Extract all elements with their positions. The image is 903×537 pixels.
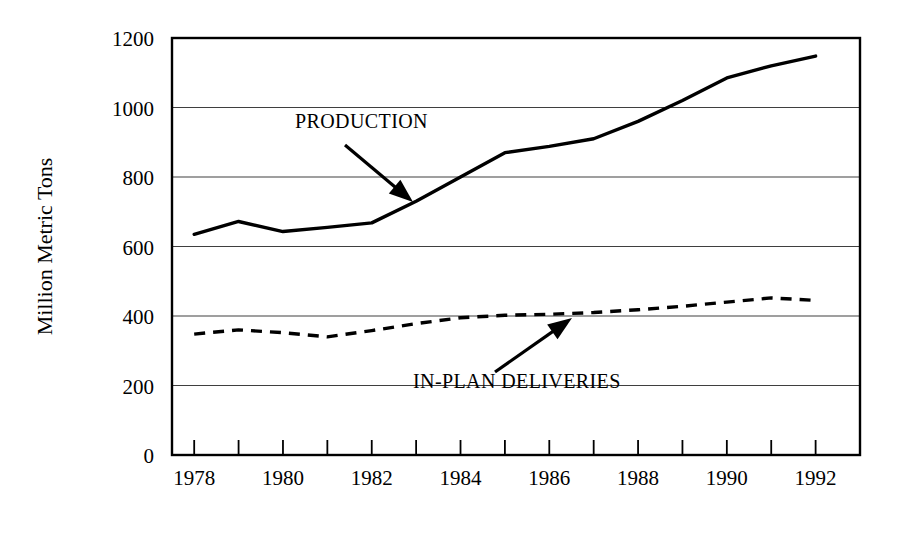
x-axis-tick-marks xyxy=(194,440,815,455)
y-axis-title: Million Metric Tons xyxy=(32,158,57,336)
y-axis-tick-labels: 020040060080010001200 xyxy=(112,27,154,468)
series-line-production xyxy=(194,56,815,234)
y-axis-title-text: Million Metric Tons xyxy=(32,158,57,336)
x-axis-tick-label: 1984 xyxy=(440,466,483,490)
y-axis-tick-label: 200 xyxy=(123,375,155,399)
x-axis-tick-label: 1990 xyxy=(706,466,748,490)
x-axis-tick-label: 1980 xyxy=(262,466,304,490)
x-axis-tick-label: 1978 xyxy=(173,466,215,490)
annotation-arrow-shaft xyxy=(345,145,399,190)
y-axis-tick-label: 1000 xyxy=(112,97,154,121)
annotation-arrow-shaft xyxy=(495,328,557,372)
y-axis-tick-label: 1200 xyxy=(112,27,154,51)
gridlines xyxy=(172,108,860,386)
x-axis-tick-label: 1986 xyxy=(528,466,570,490)
chart-figure: 19781980198219841986198819901992 0200400… xyxy=(0,0,903,537)
series-annotations: PRODUCTIONIN-PLAN DELIVERIES xyxy=(295,110,621,392)
line-chart: 19781980198219841986198819901992 0200400… xyxy=(0,0,903,537)
annotation-label: PRODUCTION xyxy=(295,110,428,132)
x-axis-tick-label: 1992 xyxy=(795,466,837,490)
y-axis-tick-label: 800 xyxy=(123,166,155,190)
y-axis-tick-label: 0 xyxy=(144,444,155,468)
x-axis-tick-labels: 19781980198219841986198819901992 xyxy=(173,466,836,490)
data-series xyxy=(194,56,815,337)
y-axis-tick-label: 600 xyxy=(123,236,155,260)
y-axis-tick-label: 400 xyxy=(123,305,155,329)
x-axis-tick-label: 1982 xyxy=(351,466,393,490)
annotation-label: IN-PLAN DELIVERIES xyxy=(413,370,621,392)
series-line-in-plan-deliveries xyxy=(194,298,815,337)
x-axis-tick-label: 1988 xyxy=(617,466,659,490)
annotation-arrow-head xyxy=(547,318,572,339)
